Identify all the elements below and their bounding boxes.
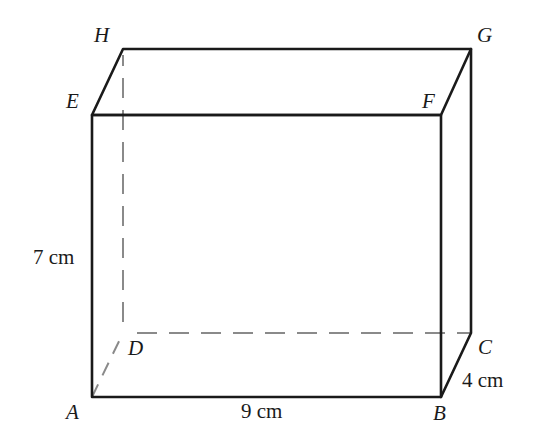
vertex-label-E: E — [65, 89, 79, 113]
right-face-BCG — [441, 49, 471, 397]
vertex-label-F: F — [421, 89, 435, 113]
vertex-label-G: G — [477, 23, 492, 47]
visible-edges — [92, 49, 471, 397]
vertex-label-C: C — [478, 335, 493, 359]
vertex-label-H: H — [93, 23, 111, 47]
vertex-labels: H G E F D C A B — [64, 23, 493, 425]
edge-AD — [92, 333, 123, 397]
height-label: 7 cm — [33, 245, 74, 269]
length-label: 9 cm — [241, 399, 282, 423]
vertex-label-B: B — [433, 401, 446, 425]
vertex-label-D: D — [127, 336, 143, 360]
top-face-EFGH — [92, 49, 471, 115]
hidden-edges — [92, 55, 471, 397]
cuboid-diagram: H G E F D C A B 7 cm 9 cm 4 cm — [0, 0, 533, 446]
width-label: 4 cm — [462, 368, 503, 392]
front-face-ABFE — [92, 115, 441, 397]
vertex-label-A: A — [64, 400, 79, 424]
